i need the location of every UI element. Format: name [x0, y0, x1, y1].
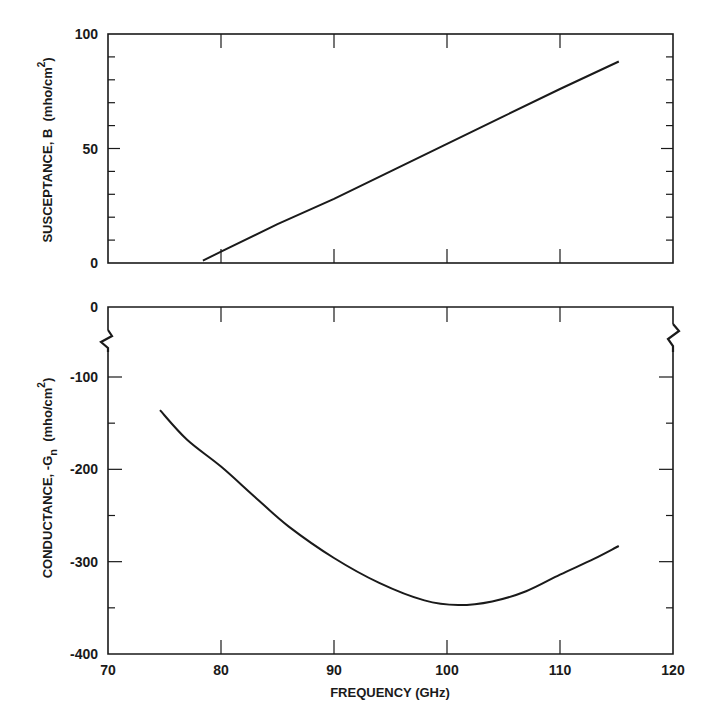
- bottom-panel: 0-100-200-300-400 708090100110120 CONDUC…: [36, 299, 685, 700]
- right-axis-break-icon: [668, 324, 679, 352]
- x-tick-label: 80: [213, 662, 229, 678]
- bottom-x-ticks: [221, 307, 560, 654]
- top-y-axis-label: SUSCEPTANCE, B (mho/cm2): [36, 57, 55, 242]
- x-axis-label: FREQUENCY (GHz): [330, 685, 450, 700]
- x-tick-label: 100: [435, 662, 459, 678]
- chart-figure: 050100 SUSCEPTANCE, B (mho/cm2) 0-100-20…: [0, 0, 707, 716]
- top-panel: 050100 SUSCEPTANCE, B (mho/cm2): [36, 26, 673, 271]
- x-tick-label: 70: [100, 662, 116, 678]
- y-tick-label: 50: [82, 141, 98, 157]
- y-tick-label: -400: [70, 646, 98, 662]
- y-tick-label: -200: [70, 461, 98, 477]
- susceptance-line: [203, 62, 619, 261]
- top-y-tick-labels: 050100: [75, 26, 99, 271]
- x-tick-label: 110: [549, 662, 572, 678]
- top-plot-frame: [108, 34, 673, 263]
- bottom-y-tick-labels: 0-100-200-300-400: [70, 299, 98, 662]
- conductance-curve: [160, 410, 619, 605]
- x-tick-label: 120: [661, 662, 685, 678]
- y-tick-label: 0: [90, 299, 98, 315]
- bottom-plot-frame: [108, 307, 673, 654]
- y-tick-label: -300: [70, 554, 98, 570]
- bottom-y-axis-label: CONDUCTANCE, -Gn (mho/cm2): [36, 378, 59, 579]
- y-tick-label: -100: [70, 369, 98, 385]
- x-tick-label: 90: [326, 662, 342, 678]
- y-tick-label: 0: [90, 255, 98, 271]
- y-tick-label: 100: [75, 26, 99, 42]
- x-tick-labels: 708090100110120: [100, 662, 685, 678]
- left-axis-break-icon: [101, 330, 112, 352]
- bottom-y-ticks: [108, 377, 673, 608]
- top-x-ticks: [221, 34, 560, 263]
- top-y-ticks: [108, 57, 673, 240]
